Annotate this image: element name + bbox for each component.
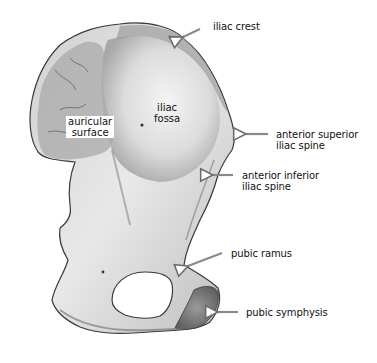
arrow-pubic-ramus <box>188 253 222 266</box>
label-iliac-fossa: iliac fossa <box>152 102 182 124</box>
label-auricular-surface: auricular surface <box>66 116 114 138</box>
label-iliac-crest: iliac crest <box>213 21 260 32</box>
arrow-iliac-crest <box>183 29 200 37</box>
label-pubic-ramus: pubic ramus <box>231 248 292 259</box>
hip-bone-diagram: auricular surface iliac fossa iliac cres… <box>0 0 377 363</box>
label-anterior-superior-iliac-spine: anterior superior iliac spine <box>276 129 358 151</box>
label-anterior-inferior-iliac-spine: anterior inferior iliac spine <box>242 170 319 192</box>
label-pubic-symphysis: pubic symphysis <box>246 307 328 318</box>
